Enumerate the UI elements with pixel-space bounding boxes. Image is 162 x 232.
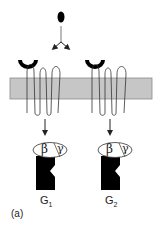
g2-beta-label: β	[106, 142, 113, 156]
ligand-branch-arrows	[54, 26, 68, 48]
ligand-icon	[58, 12, 65, 23]
g2-alpha-subunit	[101, 156, 120, 190]
g1-beta-label: β	[41, 142, 48, 156]
g2-label: G2	[105, 194, 117, 208]
g1-alpha-subunit	[36, 156, 55, 190]
g1-gamma-label: γ	[57, 142, 64, 155]
g2-subscript: 2	[114, 201, 118, 208]
gpcr-diagram	[0, 0, 162, 232]
g1-label: G1	[40, 194, 52, 208]
receptor-1-binding-cup	[18, 60, 38, 69]
cell-membrane	[10, 78, 152, 99]
g2-name: G	[105, 194, 114, 206]
g2-gamma-label: γ	[122, 142, 129, 155]
g1-name: G	[40, 194, 49, 206]
panel-label: (a)	[11, 208, 23, 219]
g1-subscript: 1	[49, 201, 53, 208]
